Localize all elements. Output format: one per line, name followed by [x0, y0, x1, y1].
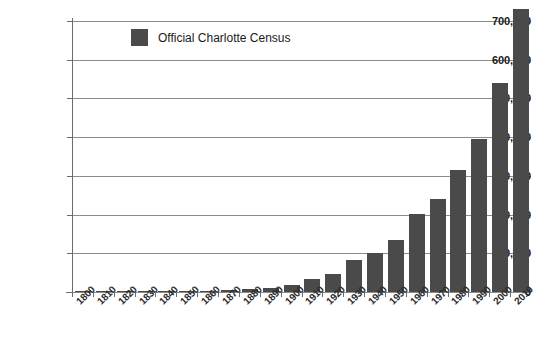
- x-axis-tick-mark: [72, 292, 73, 297]
- bar: [430, 199, 446, 292]
- x-axis-tick-mark: [155, 292, 156, 297]
- bars-group: [72, 21, 531, 292]
- x-axis-tick-mark: [385, 292, 386, 297]
- x-axis-tick-mark: [343, 292, 344, 297]
- legend-swatch-icon: [131, 29, 148, 46]
- bar: [492, 83, 508, 292]
- x-axis-tick-mark: [114, 292, 115, 297]
- x-axis-tick-mark: [489, 292, 490, 297]
- bar: [409, 214, 425, 292]
- x-axis-tick-mark: [448, 292, 449, 297]
- x-axis-tick-mark: [322, 292, 323, 297]
- x-axis-tick-mark: [260, 292, 261, 297]
- bar: [450, 170, 466, 292]
- chart-legend: Official Charlotte Census: [131, 29, 291, 46]
- x-axis-tick-mark: [406, 292, 407, 297]
- x-axis-tick-mark: [510, 292, 511, 297]
- x-axis-tick-mark: [468, 292, 469, 297]
- x-axis-tick-mark: [302, 292, 303, 297]
- x-axis-tick-mark: [176, 292, 177, 297]
- x-axis-tick-mark: [218, 292, 219, 297]
- x-axis-tick-mark: [93, 292, 94, 297]
- bar: [513, 9, 529, 292]
- x-axis-tick-mark: [427, 292, 428, 297]
- x-axis-tick-mark: [239, 292, 240, 297]
- x-axis-tick-mark: [281, 292, 282, 297]
- x-axis-tick-mark: [135, 292, 136, 297]
- bar: [471, 139, 487, 292]
- x-axis-tick-mark: [197, 292, 198, 297]
- x-axis-tick-mark: [364, 292, 365, 297]
- legend-label: Official Charlotte Census: [158, 31, 291, 45]
